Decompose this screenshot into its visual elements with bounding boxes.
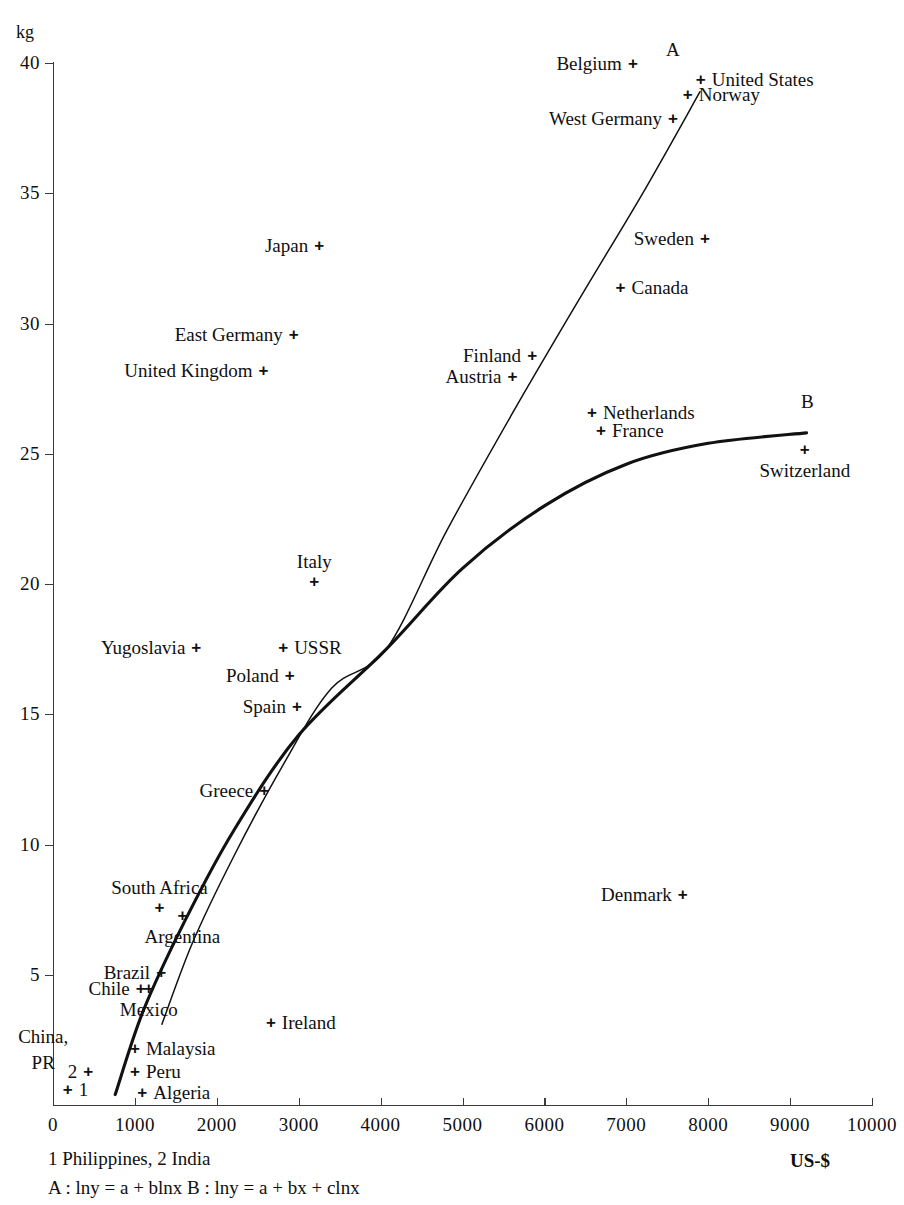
data-point-label: Ireland bbox=[282, 1012, 336, 1031]
curve-b-path bbox=[115, 433, 806, 1095]
data-point-marker: + bbox=[314, 237, 324, 254]
data-point-marker: + bbox=[191, 638, 201, 655]
data-point-marker: + bbox=[83, 1063, 93, 1080]
data-point-label: Switzerland bbox=[759, 460, 850, 479]
data-point-label: Belgium bbox=[556, 54, 621, 73]
data-point-label: Canada bbox=[632, 278, 689, 297]
data-point-marker: + bbox=[309, 573, 319, 590]
data-point-label: 1 bbox=[79, 1080, 89, 1099]
data-point-marker: + bbox=[130, 1039, 140, 1056]
data-point-marker: + bbox=[259, 781, 269, 798]
data-point-label: 2 bbox=[68, 1062, 78, 1081]
data-point-label: Spain bbox=[243, 697, 286, 716]
data-point-label: Finland bbox=[463, 345, 521, 364]
data-point-marker: + bbox=[259, 362, 269, 379]
data-point-marker: + bbox=[616, 279, 626, 296]
regression-curves bbox=[0, 0, 904, 1205]
data-point-marker: + bbox=[137, 1083, 147, 1100]
data-point-marker: + bbox=[800, 440, 810, 457]
data-point-label: Denmark bbox=[601, 884, 672, 903]
data-point-label: South Africa bbox=[111, 878, 208, 897]
data-point-label: West Germany bbox=[549, 108, 662, 127]
data-point-marker: + bbox=[63, 1081, 73, 1098]
data-point-label: Chile bbox=[88, 978, 129, 997]
footnote-formulas: A : lny = a + blnx B : lny = a + bx + cl… bbox=[48, 1177, 360, 1199]
data-point-label: China, PR bbox=[18, 1024, 68, 1075]
data-point-marker: + bbox=[278, 638, 288, 655]
data-point-label: Sweden bbox=[634, 228, 694, 247]
data-point-label: USSR bbox=[294, 637, 342, 656]
data-point-label: Poland bbox=[226, 666, 279, 685]
data-point-marker: + bbox=[587, 404, 597, 421]
data-point-label: Malaysia bbox=[146, 1038, 216, 1057]
data-point-marker: + bbox=[628, 55, 638, 72]
scatter-chart: kg 510152025303540 010002000300040005000… bbox=[0, 0, 904, 1205]
data-point-marker: + bbox=[155, 899, 165, 916]
data-point-marker: + bbox=[177, 906, 187, 923]
data-point-label: United Kingdom bbox=[124, 361, 252, 380]
curve-label-a: A bbox=[666, 39, 680, 61]
data-point-label: East Germany bbox=[175, 324, 283, 343]
data-point-label: Mexico bbox=[120, 999, 178, 1018]
data-point-marker: + bbox=[266, 1013, 276, 1030]
data-point-label: Yugoslavia bbox=[101, 637, 185, 656]
data-point-label: Netherlands bbox=[603, 403, 695, 422]
data-point-label: Japan bbox=[265, 236, 308, 255]
data-point-label: Argentina bbox=[145, 926, 221, 945]
data-point-label: France bbox=[612, 421, 664, 440]
data-point-label: Italy bbox=[297, 552, 332, 571]
x-axis-unit-label: US-$ bbox=[790, 1150, 830, 1172]
data-point-label: Greece bbox=[200, 780, 254, 799]
data-point-marker: + bbox=[683, 86, 693, 103]
data-point-marker: + bbox=[289, 325, 299, 342]
data-point-label: Austria bbox=[446, 366, 502, 385]
data-point-label: Algeria bbox=[153, 1082, 210, 1101]
data-point-marker: + bbox=[678, 885, 688, 902]
data-point-marker: + bbox=[156, 964, 166, 981]
data-point-marker: + bbox=[144, 979, 154, 996]
data-point-marker: + bbox=[596, 422, 606, 439]
footnote-countries: 1 Philippines, 2 India bbox=[48, 1148, 211, 1170]
data-point-marker: + bbox=[507, 367, 517, 384]
data-point-marker: + bbox=[130, 1063, 140, 1080]
data-point-marker: + bbox=[700, 229, 710, 246]
data-point-marker: + bbox=[527, 346, 537, 363]
data-point-label: Norway bbox=[699, 85, 760, 104]
data-point-marker: + bbox=[668, 109, 678, 126]
curve-label-b: B bbox=[801, 391, 814, 413]
data-point-marker: + bbox=[292, 698, 302, 715]
data-point-label: Peru bbox=[146, 1062, 181, 1081]
data-point-marker: + bbox=[285, 667, 295, 684]
